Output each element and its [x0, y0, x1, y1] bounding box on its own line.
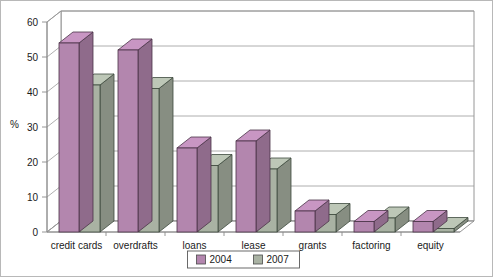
bar-front-face: [413, 222, 433, 233]
y-axis: 0102030405060: [27, 17, 47, 238]
y-tick-label-40: 40: [27, 87, 39, 98]
x-axis-label-overdrafts: overdrafts: [113, 240, 157, 251]
bar-side-face: [159, 78, 173, 233]
x-axis-label-loans: loans: [183, 240, 207, 251]
x-axis-label-credit-cards: credit cards: [51, 240, 103, 251]
bar-side-face: [138, 39, 152, 232]
x-axis-label-equity: equity: [417, 240, 444, 251]
bar-side-face: [79, 32, 93, 232]
bar-credit-cards-2004: [59, 32, 93, 232]
bar-loans-2004: [177, 137, 211, 232]
bar-front-face: [177, 148, 197, 232]
bar-overdrafts-2004: [118, 39, 152, 232]
bar-side-face: [256, 130, 270, 232]
x-axis-category-labels: credit cardsoverdraftsloansleasegrantsfa…: [51, 232, 444, 251]
legend-swatch-2007: [254, 255, 263, 264]
x-axis-label-factoring: factoring: [352, 240, 390, 251]
bar-side-face: [277, 158, 291, 232]
legend-label-2007: 2007: [267, 254, 290, 265]
chart-canvas: 0102030405060 % credit cardsoverdraftslo…: [0, 0, 493, 277]
chart-legend: 20042007: [188, 251, 300, 268]
y-tick-label-60: 60: [27, 17, 39, 28]
bar-side-face: [197, 137, 211, 232]
y-tick-label-10: 10: [27, 192, 39, 203]
y-axis-title: %: [10, 119, 19, 130]
legend-label-2004: 2004: [210, 254, 233, 265]
x-axis-label-grants: grants: [299, 240, 327, 251]
bar-front-face: [236, 141, 256, 232]
bar-front-face: [118, 50, 138, 232]
bar-front-face: [354, 222, 374, 233]
x-axis-label-lease: lease: [242, 240, 266, 251]
bar-lease-2004: [236, 130, 270, 232]
legend-item-2007: 2007: [254, 254, 290, 265]
bar-side-face: [100, 74, 114, 232]
legend-swatch-2004: [197, 255, 206, 264]
y-tick-label-30: 30: [27, 122, 39, 133]
bar-front-face: [295, 211, 315, 232]
bar-side-face: [218, 155, 232, 233]
y-tick-label-20: 20: [27, 157, 39, 168]
y-tick-label-50: 50: [27, 52, 39, 63]
legend-item-2004: 2004: [197, 254, 233, 265]
bar-chart: 0102030405060 % credit cardsoverdraftslo…: [0, 0, 493, 277]
y-tick-label-0: 0: [32, 227, 38, 238]
bar-front-face: [59, 43, 79, 232]
